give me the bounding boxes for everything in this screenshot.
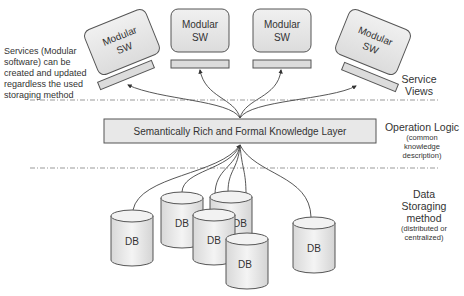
data-storaging-line2: Storaging bbox=[386, 200, 462, 212]
db-1: DB bbox=[111, 210, 153, 266]
label-service-views: Service Views bbox=[384, 73, 454, 97]
upper-arrows bbox=[128, 70, 356, 118]
svg-text:Semantically Rich and Formal K: Semantically Rich and Formal Knowledge L… bbox=[134, 126, 348, 137]
svg-text:DB: DB bbox=[175, 218, 189, 229]
db-5: DB bbox=[226, 233, 268, 289]
label-operation-logic: Operation Logic (common knowledge descri… bbox=[380, 121, 464, 160]
module-2: Modular SW bbox=[171, 9, 229, 68]
svg-text:SW: SW bbox=[192, 32, 209, 43]
svg-text:DB: DB bbox=[125, 236, 139, 247]
data-storaging-line3: method bbox=[386, 212, 462, 224]
service-views-line2: Views bbox=[384, 85, 454, 97]
operation-logic-title: Operation Logic bbox=[380, 121, 464, 133]
module-3: Modular SW bbox=[253, 9, 311, 68]
svg-text:DB: DB bbox=[307, 243, 321, 254]
service-views-line1: Service bbox=[384, 73, 454, 85]
data-storaging-line1: Data bbox=[386, 188, 462, 200]
operation-logic-sub2: knowledge bbox=[380, 142, 464, 151]
operation-logic-sub1: (common bbox=[380, 133, 464, 142]
label-data-storaging: Data Storaging method (distributed or ce… bbox=[386, 188, 462, 242]
svg-text:Modular: Modular bbox=[264, 19, 301, 30]
svg-text:Modular: Modular bbox=[182, 19, 219, 30]
data-storaging-sub2: centralized) bbox=[386, 233, 462, 242]
data-storaging-sub1: (distributed or bbox=[386, 224, 462, 233]
services-note: Services (Modular software) can be creat… bbox=[4, 46, 90, 101]
svg-text:DB: DB bbox=[238, 259, 252, 270]
svg-text:SW: SW bbox=[274, 32, 291, 43]
knowledge-layer: Semantically Rich and Formal Knowledge L… bbox=[104, 119, 376, 143]
operation-logic-sub3: description) bbox=[380, 151, 464, 160]
db-6: DB bbox=[293, 217, 335, 273]
svg-text:DB: DB bbox=[207, 235, 221, 246]
